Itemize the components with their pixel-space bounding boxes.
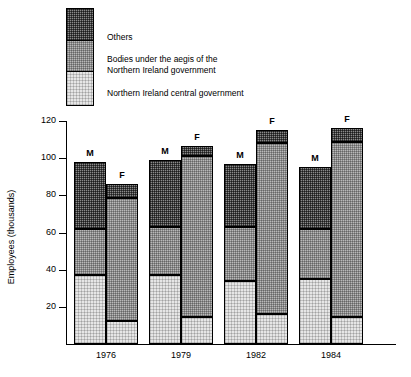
segment-others[interactable] [181,146,213,156]
bar-letter-1982-F: F [259,116,285,126]
segment-others[interactable] [149,160,181,227]
x-axis-label-1984: 1984 [301,350,361,360]
y-tick-20 [59,307,67,308]
bar-letter-1982-M: M [227,150,253,160]
y-tick-label-20: 20 [16,302,56,311]
bar-letter-1984-M: M [302,153,328,163]
bar-letter-1979-F: F [184,132,210,142]
segment-central-government[interactable] [224,281,256,344]
x-axis-label-1976: 1976 [76,350,136,360]
segment-bodies-under-aegis[interactable] [331,142,363,317]
segment-central-government[interactable] [74,275,106,344]
segment-others[interactable] [331,128,363,142]
segment-central-government[interactable] [256,314,288,344]
y-tick-40 [59,270,67,271]
bar-1984-F[interactable] [331,128,363,344]
bar-letter-1984-F: F [334,114,360,124]
segment-others[interactable] [74,162,106,229]
segment-others[interactable] [256,130,288,143]
y-tick-label-80: 80 [16,190,56,199]
y-tick-120 [59,121,67,122]
y-tick-label-40: 40 [16,265,56,274]
segment-bodies-under-aegis[interactable] [299,229,331,279]
bar-1976-F[interactable] [106,184,138,344]
segment-bodies-under-aegis[interactable] [106,198,138,321]
segment-others[interactable] [224,164,256,227]
segment-bodies-under-aegis[interactable] [74,229,106,275]
y-tick-label-60: 60 [16,228,56,237]
segment-central-government[interactable] [181,317,213,344]
x-axis-label-1979: 1979 [151,350,211,360]
segment-bodies-under-aegis[interactable] [256,143,288,314]
y-tick-60 [59,233,67,234]
bar-letter-1976-M: M [77,148,103,158]
segment-central-government[interactable] [106,321,138,344]
bar-1979-M[interactable] [149,160,181,344]
bar-1976-M[interactable] [74,162,106,344]
bar-chart: Employees (thousands) 12010080604020 MFM… [0,0,411,377]
bar-1982-F[interactable] [256,130,288,344]
bar-1984-M[interactable] [299,167,331,344]
bar-letter-1979-M: M [152,146,178,156]
bar-letter-1976-F: F [109,170,135,180]
segment-others[interactable] [106,184,138,198]
segment-others[interactable] [299,167,331,228]
segment-bodies-under-aegis[interactable] [181,156,213,317]
bar-1982-M[interactable] [224,164,256,344]
y-tick-100 [59,158,67,159]
segment-central-government[interactable] [149,275,181,344]
x-axis-line [66,344,396,345]
y-tick-label-120: 120 [16,116,56,125]
y-tick-80 [59,195,67,196]
x-axis-label-1982: 1982 [226,350,286,360]
bar-1979-F[interactable] [181,146,213,344]
y-tick-label-100: 100 [16,153,56,162]
y-axis-title: Employees (thousands) [6,142,16,332]
segment-bodies-under-aegis[interactable] [149,227,181,275]
segment-central-government[interactable] [331,317,363,344]
segment-central-government[interactable] [299,279,331,344]
segment-bodies-under-aegis[interactable] [224,227,256,281]
